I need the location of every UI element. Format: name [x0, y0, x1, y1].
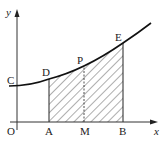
y-axis-label: y	[5, 6, 11, 18]
point-P-label: P	[77, 54, 83, 66]
x-axis-arrow-icon	[150, 120, 158, 125]
hatched-area	[49, 40, 123, 122]
point-C-label: C	[7, 74, 14, 86]
x-axis-label: x	[153, 125, 159, 137]
point-B-label: B	[119, 125, 126, 137]
origin-label: O	[7, 125, 15, 137]
point-E-label: E	[115, 31, 122, 43]
y-axis-arrow-icon	[15, 9, 20, 17]
integral-diagram: y x O C D P E A M B	[0, 0, 168, 145]
point-A-label: A	[45, 125, 53, 137]
point-D-label: D	[42, 66, 50, 78]
point-M-label: M	[80, 125, 90, 137]
